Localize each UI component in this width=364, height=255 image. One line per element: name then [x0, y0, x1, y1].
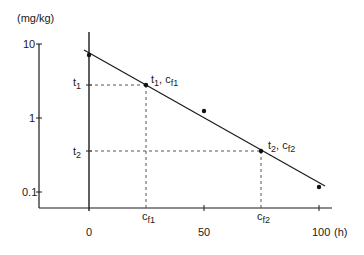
annotation-t2-cf2: t2, cf2	[268, 139, 295, 152]
y-tick-label-1: 1	[29, 112, 35, 124]
x-tick-label-0: 0	[86, 226, 92, 238]
data-point-t2-cf2	[259, 149, 263, 153]
annotation-t1-sep: , c	[159, 73, 171, 85]
data-point	[202, 109, 206, 113]
cf2-axis-label-sub: f2	[263, 215, 271, 225]
y-tick-label-10: 10	[23, 38, 35, 50]
annotation-t2-sub: 2	[271, 144, 276, 154]
data-point	[317, 185, 321, 189]
cf2-axis-label-c: c	[257, 210, 263, 222]
annotation-t1-sub: 1	[154, 78, 159, 88]
y-axis-unit-label: (mg/kg)	[17, 12, 54, 24]
cf1-axis-label: cf1	[142, 210, 155, 223]
annotation-t1-cf1: t1, cf1	[151, 73, 178, 86]
data-point-t1-cf1	[144, 83, 148, 87]
t1-axis-label-sub: 1	[76, 81, 81, 91]
t2-axis-label-sub: 2	[76, 150, 81, 160]
annotation-t2-sep: , c	[276, 139, 288, 151]
annotation-cf2-sub: f2	[288, 144, 296, 154]
annotation-cf1-sub: f1	[171, 78, 179, 88]
regression-line	[84, 50, 325, 186]
cf1-axis-label-c: c	[142, 210, 148, 222]
y-tick-label-0.1: 0.1	[22, 186, 37, 198]
cf2-axis-label: cf2	[257, 210, 270, 223]
x-tick-label-100: 100	[312, 226, 330, 238]
chart-canvas	[0, 0, 364, 255]
cf1-axis-label-sub: f1	[148, 215, 156, 225]
t1-axis-label: t1	[73, 76, 81, 89]
x-axis-unit-label: (h)	[334, 226, 347, 238]
x-tick-label-50: 50	[198, 226, 210, 238]
t2-axis-label: t2	[73, 145, 81, 158]
data-point	[87, 53, 91, 57]
